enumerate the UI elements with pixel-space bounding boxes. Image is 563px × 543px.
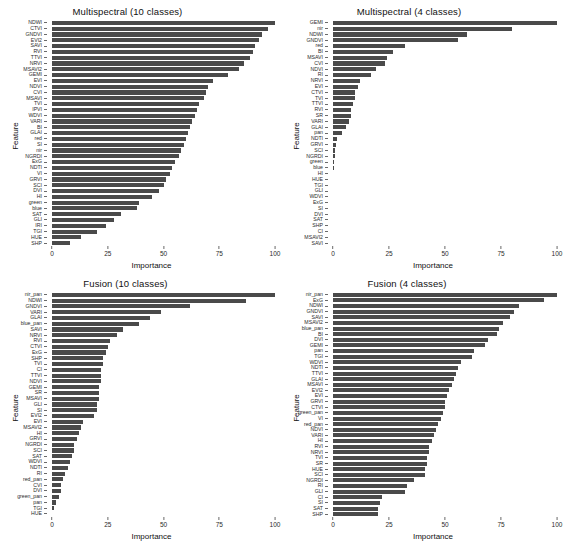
y-tick-mark xyxy=(44,398,47,399)
x-axis-title: Importance xyxy=(281,532,563,541)
y-tick-mark xyxy=(325,127,328,128)
y-tick-mark xyxy=(44,46,47,47)
bar xyxy=(52,224,106,228)
bar xyxy=(52,402,97,406)
bar xyxy=(333,405,445,409)
bar xyxy=(52,339,110,343)
y-tick-mark xyxy=(44,34,47,35)
bar xyxy=(333,433,434,437)
bar xyxy=(333,321,503,325)
y-tick-mark xyxy=(44,214,47,215)
bar xyxy=(52,32,262,36)
x-axis-title: Importance xyxy=(0,261,281,270)
y-tick-mark xyxy=(44,450,47,451)
bar xyxy=(333,73,371,77)
y-tick-mark xyxy=(44,243,47,244)
bar xyxy=(52,333,117,337)
y-tick-mark xyxy=(325,457,328,458)
y-tick-mark xyxy=(325,202,328,203)
y-tick-mark xyxy=(325,92,328,93)
bar xyxy=(333,137,337,141)
x-tick-label: 25 xyxy=(104,517,111,528)
y-tick-mark xyxy=(325,446,328,447)
bar xyxy=(333,501,380,505)
bar-series xyxy=(333,292,557,517)
bar xyxy=(333,67,376,71)
x-tick-mark xyxy=(556,246,557,249)
bar xyxy=(52,125,190,129)
bar xyxy=(52,472,65,476)
y-tick-mark xyxy=(325,469,328,470)
bar xyxy=(333,160,334,164)
bar xyxy=(333,327,499,331)
bar xyxy=(52,299,246,303)
y-tick-mark xyxy=(44,92,47,93)
y-tick-mark xyxy=(44,404,47,405)
x-axis-title: Importance xyxy=(281,261,563,270)
bar xyxy=(52,56,250,60)
x-tick-mark xyxy=(274,517,275,520)
y-tick-mark xyxy=(325,191,328,192)
y-tick-mark xyxy=(44,86,47,87)
bar xyxy=(52,148,181,152)
y-tick-mark xyxy=(44,375,47,376)
y-tick-mark xyxy=(325,86,328,87)
y-tick-mark xyxy=(325,474,328,475)
bar xyxy=(52,96,204,100)
y-tick-mark xyxy=(325,412,328,413)
bar xyxy=(52,414,94,418)
bar xyxy=(333,102,353,106)
x-axis: 0255075100 xyxy=(52,517,275,531)
bar xyxy=(333,495,382,499)
x-axis: 0255075100 xyxy=(52,246,275,260)
bar xyxy=(333,366,458,370)
x-tick-mark xyxy=(333,246,334,249)
bar xyxy=(52,316,150,320)
y-tick-mark xyxy=(44,369,47,370)
x-tick-label: 75 xyxy=(216,246,223,257)
y-tick-mark xyxy=(325,46,328,47)
panel-title: Fusion (10 classes) xyxy=(0,278,281,289)
y-tick-mark xyxy=(44,433,47,434)
bar xyxy=(333,383,452,387)
bar xyxy=(52,431,79,435)
y-tick-mark xyxy=(325,138,328,139)
y-tick-mark xyxy=(44,329,47,330)
bar xyxy=(52,489,61,493)
x-tick-label: 0 xyxy=(331,246,335,257)
y-tick-mark xyxy=(44,456,47,457)
bar xyxy=(333,372,456,376)
y-tick-labels: nir_panExGNDWIGNDVISAVIMSAVI2blue_panBID… xyxy=(281,292,333,517)
y-tick-mark xyxy=(325,40,328,41)
bar xyxy=(333,343,485,347)
x-tick-label: 100 xyxy=(270,246,281,257)
y-tick-mark xyxy=(44,202,47,203)
y-tick-mark xyxy=(325,339,328,340)
y-tick-mark xyxy=(44,98,47,99)
y-tick-mark xyxy=(44,133,47,134)
bar xyxy=(333,119,349,123)
y-tick-mark xyxy=(325,418,328,419)
y-tick-mark xyxy=(44,306,47,307)
bar xyxy=(52,119,192,123)
bar xyxy=(52,67,239,71)
bar xyxy=(52,350,106,354)
bar xyxy=(333,125,346,129)
y-tick-mark xyxy=(325,452,328,453)
y-tick-mark xyxy=(325,243,328,244)
bar xyxy=(52,408,97,412)
x-tick-mark xyxy=(163,517,164,520)
y-tick-mark xyxy=(325,441,328,442)
y-tick-mark xyxy=(325,367,328,368)
y-tick-mark xyxy=(325,28,328,29)
bar xyxy=(52,206,137,210)
bar xyxy=(333,388,449,392)
panel-multispectral-10-classes: Multispectral (10 classes) Feature NDWIC… xyxy=(0,0,281,272)
bar xyxy=(52,21,275,25)
x-tick-label: 0 xyxy=(50,517,54,528)
y-tick-mark xyxy=(325,57,328,58)
y-tick-mark xyxy=(44,173,47,174)
x-tick-label: 100 xyxy=(552,517,563,528)
bar xyxy=(52,362,103,366)
x-tick-mark xyxy=(52,246,53,249)
